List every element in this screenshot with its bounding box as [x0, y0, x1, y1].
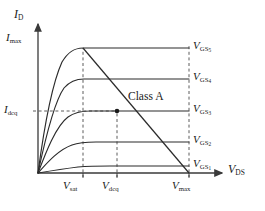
y-axis-label-subscript: D [18, 13, 23, 22]
curve-label-vgs4-index: 4 [208, 78, 211, 84]
y-tick-label-imax: Imax [6, 32, 21, 43]
y-axis-label: ID [14, 8, 23, 20]
x-tick-vdcq-symbol: V [102, 179, 109, 191]
curve-label-vgs5-subscript: GS5 [200, 45, 211, 52]
x-tick-vdcq-subscript: dcq [109, 185, 119, 192]
curve-label-vgs1-symbol: V [193, 157, 200, 169]
curve-label-vgs2-index: 2 [208, 141, 211, 147]
curve-label-vgs2: VGS2 [193, 134, 211, 145]
x-tick-label-vsat: Vsat [63, 180, 77, 191]
y-tick-imax-subscript: max [10, 37, 22, 44]
y-tick-idcq-subscript: dcq [8, 109, 18, 116]
x-tick-label-vmax: Vmax [172, 180, 190, 191]
curve-vgs1 [38, 166, 189, 173]
x-axis-label-subscript: DS [235, 168, 245, 177]
iv-characteristic-figure: ID VDS Imax Idcq Vsat Vdcq Vmax VGS5 VGS… [0, 0, 265, 211]
curve-label-vgs5-symbol: V [193, 39, 200, 51]
x-tick-label-vdcq: Vdcq [102, 180, 119, 191]
curve-label-vgs3-index: 3 [208, 110, 211, 116]
curve-label-vgs5-index: 5 [208, 47, 211, 53]
iv-curves [38, 48, 189, 173]
x-tick-vmax-symbol: V [172, 179, 179, 191]
plot-canvas [0, 0, 265, 211]
curve-label-vgs3: VGS3 [193, 103, 211, 114]
curve-label-vgs2-symbol: V [193, 133, 200, 145]
curve-label-vgs5: VGS5 [193, 40, 211, 51]
bias-point-marker [115, 109, 120, 114]
curve-label-vgs4: VGS4 [193, 71, 211, 82]
y-tick-label-idcq: Idcq [4, 104, 18, 115]
curve-label-vgs3-subscript: GS3 [200, 108, 211, 115]
x-tick-vsat-subscript: sat [70, 185, 78, 192]
curve-label-vgs3-symbol: V [193, 102, 200, 114]
curve-label-vgs2-subscript: GS2 [200, 139, 211, 146]
curve-label-vgs1: VGS1 [193, 158, 211, 169]
x-axis-label: VDS [228, 163, 245, 175]
curve-label-vgs4-symbol: V [193, 70, 200, 82]
class-a-annotation: Class A [128, 91, 163, 103]
curve-label-vgs1-subscript: GS1 [200, 163, 211, 170]
x-tick-vmax-subscript: max [179, 185, 191, 192]
curve-label-vgs1-index: 1 [208, 165, 211, 171]
curve-vgs4 [38, 79, 189, 173]
x-tick-vsat-symbol: V [63, 179, 70, 191]
curve-label-vgs4-subscript: GS4 [200, 76, 211, 83]
